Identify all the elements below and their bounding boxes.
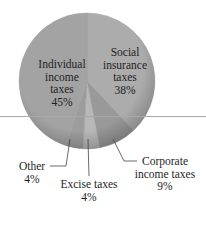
label-text: Social — [92, 46, 158, 59]
label-text: insurance — [92, 59, 158, 72]
label-other: Other 4% — [14, 160, 50, 185]
label-text: taxes — [26, 83, 98, 96]
label-text: Excise taxes — [58, 178, 120, 191]
label-text: income taxes — [132, 168, 198, 181]
label-text: Other — [14, 160, 50, 173]
label-text: taxes — [92, 71, 158, 84]
label-text: Corporate — [132, 155, 198, 168]
label-percent: 45% — [26, 96, 98, 109]
label-social-insurance-taxes: Social insurance taxes 38% — [92, 46, 158, 96]
label-text: income — [26, 71, 98, 84]
label-excise-taxes: Excise taxes 4% — [58, 178, 120, 203]
label-corporate-income-taxes: Corporate income taxes 9% — [132, 155, 198, 193]
label-individual-income-taxes: Individual income taxes 45% — [26, 58, 98, 108]
horizontal-rule — [0, 116, 206, 117]
label-percent: 9% — [132, 180, 198, 193]
label-text: Individual — [26, 58, 98, 71]
label-percent: 4% — [58, 191, 120, 204]
label-percent: 38% — [92, 84, 158, 97]
label-percent: 4% — [14, 173, 50, 186]
